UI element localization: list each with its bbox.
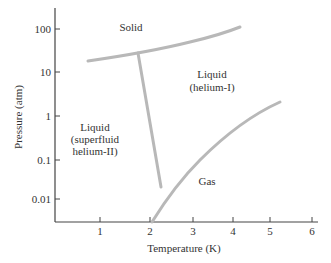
region-liquid-helium-1: Liquid [197,68,227,80]
x-tick-label: 4 [230,225,236,237]
x-tick-label: 5 [267,225,273,237]
x-tick-label: 3 [190,225,196,237]
region-labels: Solid Liquid (helium-I) Liquid (superflu… [71,21,235,187]
x-axis-title: Temperature (K) [147,242,221,255]
x-tick-label: 1 [97,225,103,237]
liquid-gas-boundary [152,102,280,222]
region-liquid-helium-2: helium-II) [72,145,118,158]
solid-liquid-boundary [88,27,240,61]
x-tick-label: 6 [309,225,315,237]
region-solid: Solid [119,21,143,33]
y-tick-label: 0.1 [37,154,51,166]
region-gas: Gas [198,175,215,187]
y-tick-labels: 100 10 1 0.1 0.01 [32,23,52,205]
axes [55,8,318,222]
y-tick-label: 0.01 [32,193,51,205]
y-axis-title: Pressure (atm) [12,85,25,149]
y-tick-label: 1 [46,110,52,122]
x-tick-labels: 1 2 3 4 5 6 [97,225,315,237]
region-liquid-helium-1: (helium-I) [189,81,235,94]
lambda-line [138,53,161,187]
y-ticks [55,29,60,199]
y-tick-label: 100 [35,23,52,35]
helium-phase-diagram: 100 10 1 0.1 0.01 1 2 3 4 5 6 Temperatur… [0,0,331,263]
phase-boundaries [88,27,280,222]
x-tick-label: 2 [147,225,153,237]
x-ticks [100,217,312,222]
region-liquid-helium-2: Liquid [80,121,110,133]
y-tick-label: 10 [40,66,52,78]
